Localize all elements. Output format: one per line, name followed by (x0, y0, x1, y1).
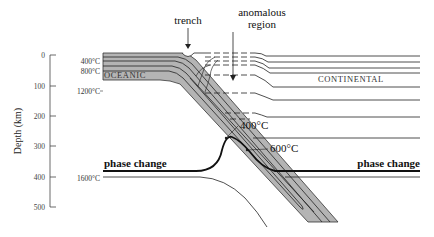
tick-500: 500 (34, 203, 46, 212)
tick-100: 100 (34, 82, 46, 91)
trench-label: trench (174, 14, 202, 26)
anomalous-label-2: region (248, 18, 277, 30)
slab-600-label: 600°C (270, 142, 298, 154)
phase-change-left-label: phase change (104, 157, 167, 169)
anomalous-region: anomalous region (230, 6, 286, 81)
tick-200: 200 (34, 112, 46, 121)
isotherm-labels: 400°C 800°C 1200°C 1600°C (77, 57, 103, 183)
depth-axis: 0 100 200 300 400 500 Depth (km) (12, 51, 56, 212)
axis-title: Depth (km) (12, 108, 24, 154)
subduction-diagram: 0 100 200 300 400 500 Depth (km) trench … (0, 0, 434, 237)
phase-change-right-label: phase change (357, 157, 420, 169)
tick-300: 300 (34, 142, 46, 151)
temp-1600: 1600°C (77, 174, 100, 183)
temp-400: 400°C (81, 57, 100, 66)
tick-0: 0 (41, 51, 45, 60)
slab-400-label: 400°C (240, 119, 268, 131)
oceanic-label: OCEANIC (104, 70, 146, 80)
temp-800: 800°C (81, 67, 100, 76)
anomalous-label-1: anomalous (238, 6, 286, 18)
trench: trench (174, 14, 202, 57)
continental-label: CONTINENTAL (318, 74, 384, 84)
tick-400: 400 (34, 173, 46, 182)
temp-1200: 1200°C (77, 87, 100, 96)
